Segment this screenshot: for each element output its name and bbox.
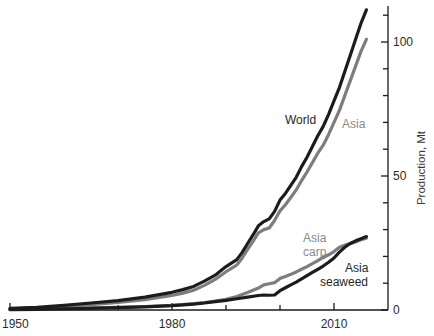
x-tick-label: 2010: [321, 317, 348, 331]
x-tick-label: 1980: [159, 317, 186, 331]
series-label-asia: Asia: [342, 117, 366, 131]
series-label-asia: Asia: [345, 261, 369, 275]
series-label-world: World: [285, 113, 316, 127]
axes-group: [10, 6, 388, 310]
series-line-asia: [10, 39, 366, 309]
chart-plot-area: 195019802010 050100 WorldAsiaAsiacarpAsi…: [0, 0, 434, 336]
series-label-carp: carp: [303, 245, 327, 259]
y-tick-label: 50: [393, 169, 407, 183]
series-paths-group: [10, 10, 366, 310]
y-axis-ticks: [381, 15, 388, 310]
x-tick-label: 1950: [2, 317, 29, 331]
production-line-chart: 195019802010 050100 WorldAsiaAsiacarpAsi…: [0, 0, 434, 336]
x-tick-labels-group: 195019802010: [2, 317, 348, 331]
y-tick-label: 0: [393, 303, 400, 317]
y-tick-labels-group: 050100: [393, 35, 413, 317]
series-label-seaweed: seaweed: [320, 275, 368, 289]
y-tick-label: 100: [393, 35, 413, 49]
y-axis-title: Production, Mt: [415, 130, 427, 205]
series-label-asia: Asia: [303, 231, 327, 245]
